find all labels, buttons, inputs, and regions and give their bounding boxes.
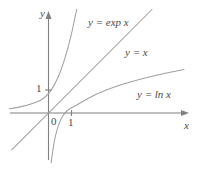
curve-label-ln: y = ln x <box>137 89 171 100</box>
origin-label-text: 0 <box>51 115 57 127</box>
x-axis-label: x <box>184 120 189 131</box>
origin-label: 0 <box>51 116 57 127</box>
curve-label-exp: y = exp x <box>88 17 129 28</box>
y-tick-label-1: 1 <box>36 83 42 94</box>
curve-exp <box>9 9 76 109</box>
y-axis-label: y <box>40 8 45 19</box>
curve-label-linear-text: y = x <box>125 46 148 58</box>
y-tick-label-1-text: 1 <box>36 82 42 94</box>
graph-figure: y = exp x y = x y = ln x x y 0 1 1 <box>0 0 203 171</box>
x-axis-label-text: x <box>184 119 189 131</box>
curve-label-ln-text: y = ln x <box>137 88 171 100</box>
curve-label-exp-text: y = exp x <box>88 16 129 28</box>
curve-linear <box>12 10 152 150</box>
x-tick-label-1: 1 <box>68 117 74 128</box>
y-axis-label-text: y <box>40 7 45 19</box>
x-axis <box>10 110 189 116</box>
x-tick-label-1-text: 1 <box>68 116 74 128</box>
y-axis <box>46 11 52 160</box>
curve-label-linear: y = x <box>125 47 148 58</box>
